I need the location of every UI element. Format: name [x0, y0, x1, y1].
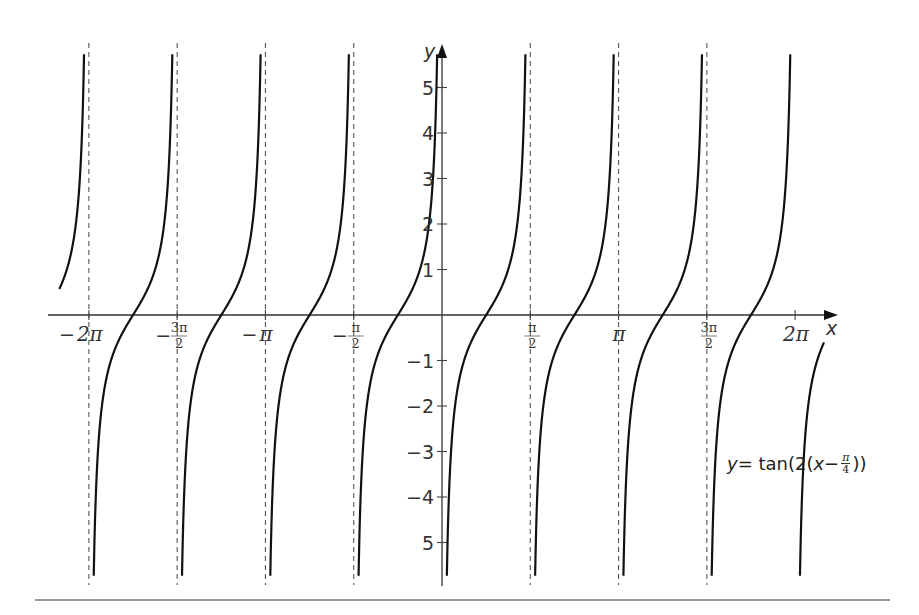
axes	[48, 44, 838, 586]
y-tick-label: −4	[406, 486, 434, 508]
x-tick-frac-num: π	[351, 320, 360, 335]
y-tick-label: 3	[422, 168, 434, 190]
tan-graph: xy−2π−3π2−π−π2π2π3π22π54321−1−2−3−45	[0, 0, 919, 615]
x-tick-frac-den: 2	[705, 336, 713, 351]
function-label: y = tan(2( x − π 4 ))	[727, 452, 866, 475]
x-tick-frac-den: 2	[528, 336, 536, 351]
x-tick-label: 2π	[76, 322, 104, 346]
x-tick-minus: −	[332, 324, 348, 346]
y-tick-label: 5	[422, 532, 434, 554]
x-tick-label: 2π	[782, 322, 810, 346]
x-tick-frac-num: 3π	[171, 320, 188, 335]
y-tick-label: 4	[422, 122, 434, 144]
formula-eq: = tan(2(	[738, 453, 814, 474]
y-tick-label: 5	[422, 77, 434, 99]
y-tick-label: 2	[422, 213, 434, 235]
formula-fraction: π 4	[841, 452, 850, 475]
x-tick-label: π	[612, 322, 627, 346]
x-tick-frac-den: 2	[352, 336, 360, 351]
formula-y: y	[727, 453, 738, 474]
y-tick-label: 1	[422, 259, 434, 281]
x-tick-minus: −	[241, 323, 257, 345]
x-tick-frac-num: 3π	[700, 320, 717, 335]
y-tick-label: −1	[406, 350, 434, 372]
formula-fraction-den: 4	[842, 464, 849, 475]
y-tick-label: −3	[406, 441, 434, 463]
x-axis-label: x	[825, 317, 838, 339]
tan-branch	[59, 54, 84, 289]
x-tick-minus: −	[59, 323, 75, 345]
y-axis-label: y	[423, 40, 436, 62]
x-tick-label: π	[258, 322, 273, 346]
x-tick-minus: −	[155, 324, 171, 346]
formula-x: x	[813, 453, 824, 474]
tick-labels: xy−2π−3π2−π−π2π2π3π22π54321−1−2−3−45	[59, 40, 838, 554]
formula-minus: −	[824, 453, 839, 474]
x-tick-frac-num: π	[528, 320, 537, 335]
y-axis-arrow-icon	[437, 44, 447, 58]
formula-close: ))	[852, 453, 866, 474]
y-tick-label: −2	[406, 395, 434, 417]
x-tick-frac-den: 2	[175, 336, 183, 351]
